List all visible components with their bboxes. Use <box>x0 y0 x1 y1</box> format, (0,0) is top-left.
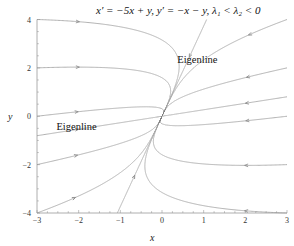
y-tick-label: −4 <box>22 209 31 218</box>
trajectory <box>162 97 287 116</box>
eigenline-label-shallow: Eigenline <box>56 121 97 132</box>
trajectory <box>160 116 287 125</box>
y-tick-label: 2 <box>27 64 31 73</box>
y-tick-label: −2 <box>22 161 31 170</box>
x-tick-label: 0 <box>160 216 164 225</box>
x-tick-label: −2 <box>74 216 83 225</box>
trajectory <box>153 116 287 165</box>
x-tick-label: 2 <box>243 216 247 225</box>
y-tick-label: 4 <box>27 16 31 25</box>
x-axis-label: x <box>149 232 155 243</box>
trajectory <box>37 107 164 116</box>
x-tick-label: −1 <box>116 216 125 225</box>
x-tick-label: 3 <box>285 216 289 225</box>
x-tick-label: −3 <box>33 216 42 225</box>
trajectory <box>162 20 207 117</box>
eigenline-label-steep: Eigenline <box>177 54 218 65</box>
x-tick-label: 1 <box>202 216 206 225</box>
y-axis-label: y <box>7 111 13 122</box>
trajectory <box>37 67 171 116</box>
y-tick-label: 0 <box>27 112 31 121</box>
trajectory <box>117 116 162 213</box>
trajectories <box>37 20 287 214</box>
chart-title: x′ = −5x + y, y′ = −x − y, λ₁ < λ₂ < 0 <box>95 4 261 16</box>
trajectory <box>162 20 287 117</box>
phase-portrait: −3−2−10123−4−2024 x′ = −5x + y, y′ = −x … <box>0 0 294 246</box>
